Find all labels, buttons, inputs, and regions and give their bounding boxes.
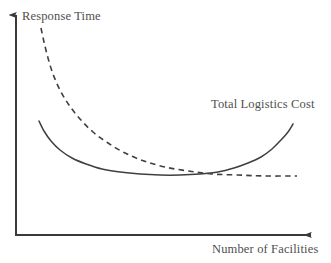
chart-plot-area [0, 0, 331, 263]
x-axis-label: Number of Facilities [212, 243, 318, 256]
series-label-total-logistics-cost: Total Logistics Cost [211, 98, 315, 111]
y-axis-label: Response Time [22, 10, 101, 23]
series-total-logistics-cost-curve [39, 121, 293, 175]
chart-canvas: Response Time Total Logistics Cost Numbe… [0, 0, 331, 263]
